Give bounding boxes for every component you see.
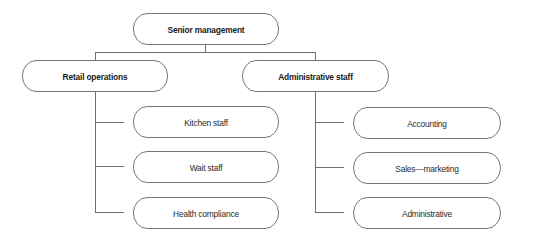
connector-retail-health xyxy=(95,212,124,213)
org-chart: Senior management Retail operations Admi… xyxy=(0,0,548,244)
node-label: Kitchen staff xyxy=(184,117,228,128)
node-wait-staff: Wait staff xyxy=(133,151,279,183)
node-health-compliance: Health compliance xyxy=(133,197,279,229)
node-senior-management: Senior management xyxy=(133,13,279,45)
connector-retail-kitchen xyxy=(95,122,124,123)
node-label: Health compliance xyxy=(173,208,239,219)
node-label: Sales—marketing xyxy=(395,163,458,174)
node-retail-operations: Retail operations xyxy=(22,60,168,92)
connector-retail-spine xyxy=(95,91,96,213)
node-sales-marketing: Sales—marketing xyxy=(353,152,501,184)
node-label: Retail operations xyxy=(63,71,128,82)
connector-retail-wait xyxy=(95,166,124,167)
connector-admin-sales xyxy=(315,167,344,168)
node-kitchen-staff: Kitchen staff xyxy=(133,106,279,138)
connector-root-stub xyxy=(205,44,206,52)
connector-admin-administrative xyxy=(315,212,344,213)
connector-to-retail xyxy=(95,52,96,60)
node-label: Accounting xyxy=(407,118,447,129)
node-accounting: Accounting xyxy=(353,107,501,139)
node-label: Administrative staff xyxy=(278,71,353,82)
node-administrative-staff: Administrative staff xyxy=(242,60,389,92)
connector-to-admin xyxy=(315,52,316,60)
node-label: Administrative xyxy=(402,208,452,219)
connector-root-bar xyxy=(95,52,316,53)
connector-admin-spine xyxy=(315,91,316,213)
node-administrative: Administrative xyxy=(353,197,501,229)
connector-admin-accounting xyxy=(315,122,344,123)
node-label: Wait staff xyxy=(190,162,223,173)
node-label: Senior management xyxy=(168,24,245,35)
